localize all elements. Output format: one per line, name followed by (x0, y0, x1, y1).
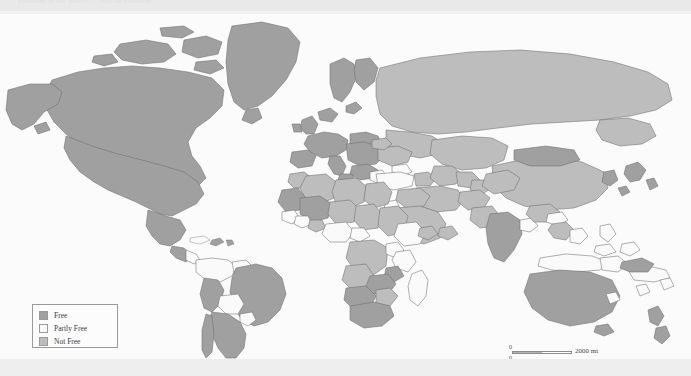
legend-label-not-free: Not Free (54, 337, 80, 346)
scalebar-miles-fill (513, 352, 542, 353)
scalebar-miles-label: 2000 mi (575, 348, 598, 355)
scalebar-miles-bar (512, 351, 572, 354)
map-plate: .free { fill:#a0a0a0; stroke:#6e6e6e; st… (0, 14, 691, 359)
legend-item-not-free: Not Free (39, 335, 117, 347)
legend-swatch-free (39, 311, 48, 320)
legend-label-free: Free (54, 311, 67, 320)
map-legend: Free Partly Free Not Free (32, 304, 118, 348)
map-scalebar: 0 2000 mi 0 2000 km (509, 344, 629, 359)
legend-swatch-not-free (39, 337, 48, 346)
legend-item-free: Free (39, 309, 117, 321)
legend-swatch-partly-free (39, 324, 48, 333)
page-header-strip: Freedom in the World — Map of Freedom (0, 0, 691, 11)
running-header-text: Freedom in the World — Map of Freedom (18, 0, 658, 7)
legend-item-partly-free: Partly Free (39, 322, 117, 334)
scalebar-miles-start: 0 (509, 344, 512, 350)
page-bottom-band (0, 359, 691, 376)
map-page: Freedom in the World — Map of Freedom .f… (0, 0, 691, 376)
legend-label-partly-free: Partly Free (54, 324, 87, 333)
